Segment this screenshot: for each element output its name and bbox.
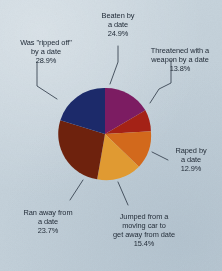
pie-chart-figure: Was "ripped off" by a date 28.9% Beaten … (0, 0, 222, 271)
leader-line-was-ripped-off (37, 62, 57, 99)
slice-label-threatened-with-a-weapon: Threatened with a weapon by a date 13.8% (138, 46, 222, 73)
leader-line-ran-away-from-a-date (70, 180, 83, 200)
slice-label-raped-by-a-date: Raped by a date 12.9% (162, 146, 220, 173)
leader-line-jumped-from-moving-car (118, 182, 128, 205)
pie-slices (58, 88, 151, 180)
slice-label-ran-away-from-a-date: Ran away from a date 23.7% (8, 208, 88, 235)
slice-label-jumped-from-moving-car: Jumped from a moving car to get away fro… (94, 212, 194, 248)
leader-line-beaten-by-a-date (110, 46, 118, 84)
slice-label-was-ripped-off: Was "ripped off" by a date 28.9% (2, 38, 90, 65)
slice-label-beaten-by-a-date: Beaten by a date 24.9% (85, 11, 151, 38)
